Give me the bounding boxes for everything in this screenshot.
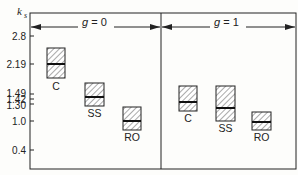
svg-text:SS: SS	[218, 122, 232, 134]
box-g0-ro: RO	[123, 107, 141, 143]
svg-text:2.8: 2.8	[12, 31, 26, 42]
box-g1-c: C	[179, 86, 197, 124]
box-g1-ss: SS	[216, 86, 235, 134]
box-g0-ss: SS	[85, 83, 104, 119]
svg-text:k: k	[17, 5, 23, 17]
svg-text:SS: SS	[87, 107, 101, 119]
box-g1-ro: RO	[252, 112, 271, 143]
plot-frame	[30, 13, 296, 169]
box-chart: k s g = 0 g = 1 2.8 2.19 1.49 1.42 1.30 …	[0, 0, 298, 175]
panel-label-g1: g = 1	[214, 16, 239, 28]
svg-text:RO: RO	[124, 131, 140, 143]
svg-text:0.4: 0.4	[12, 145, 26, 156]
svg-text:C: C	[52, 80, 60, 92]
panel-label-g0: g = 0	[82, 16, 107, 28]
svg-text:g = 0: g = 0	[82, 16, 107, 28]
svg-text:s: s	[24, 11, 27, 20]
box-g0-c: C	[47, 48, 65, 92]
svg-text:1.0: 1.0	[12, 116, 26, 127]
svg-text:g = 1: g = 1	[214, 16, 239, 28]
svg-text:C: C	[184, 112, 192, 124]
svg-text:RO: RO	[254, 131, 270, 143]
y-axis-label: k s	[17, 5, 27, 20]
svg-text:2.19: 2.19	[7, 59, 27, 70]
svg-text:1.30: 1.30	[7, 100, 27, 111]
